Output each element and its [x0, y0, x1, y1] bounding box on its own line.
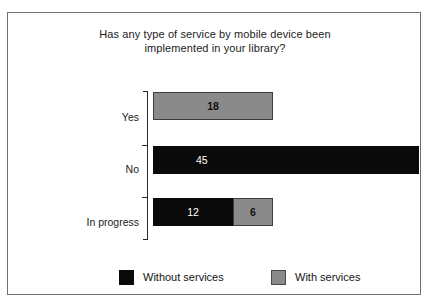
bar-value-in-progress-with-services: 6	[250, 207, 256, 218]
bar-row-yes: 18	[153, 92, 273, 120]
category-label-in-progress: In progress	[86, 216, 139, 228]
bar-segment-in-progress-with-services[interactable]: 6	[233, 198, 273, 226]
axis-tick-1	[142, 145, 148, 146]
axis-tick-2	[142, 197, 148, 198]
bar-row-in-progress: 12 6	[153, 198, 273, 226]
category-label-no: No	[126, 163, 139, 175]
legend-swatch-without-services-icon	[119, 270, 134, 285]
bar-value-yes-with-services: 18	[207, 101, 219, 112]
plot-area: Yes No In progress 18 45 12 6	[8, 13, 422, 296]
bar-value-no-without-services: 45	[196, 155, 208, 166]
axis-cap-bottom	[143, 239, 148, 240]
legend-item-without-services[interactable]: Without services	[119, 268, 224, 286]
bar-value-in-progress-without-services: 12	[187, 207, 199, 218]
figure-frame: Has any type of service by mobile device…	[7, 12, 421, 295]
legend-swatch-with-services-icon	[271, 270, 286, 285]
bar-segment-in-progress-without-services[interactable]: 12	[153, 198, 233, 226]
bar-segment-no-without-services[interactable]: 45	[153, 146, 419, 174]
legend-label-with-services: With services	[295, 271, 360, 283]
legend-item-with-services[interactable]: With services	[271, 268, 360, 286]
axis-cap-top	[143, 91, 148, 92]
bar-segment-yes-with-services[interactable]: 18	[153, 92, 273, 120]
bar-row-no: 45	[153, 146, 419, 174]
legend-label-without-services: Without services	[143, 271, 224, 283]
category-label-yes: Yes	[122, 111, 139, 123]
chart-legend: Without services With services	[8, 268, 422, 292]
category-axis-line	[147, 91, 148, 240]
